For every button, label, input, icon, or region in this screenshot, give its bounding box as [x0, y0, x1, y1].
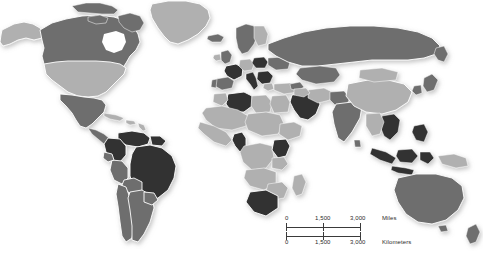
scale-label-kilometers-1: 1,500: [315, 239, 331, 246]
region-sri-lanka: [354, 140, 361, 147]
region-portugal: [211, 79, 217, 88]
scale-unit-kilometers: Kilometers: [382, 239, 411, 246]
scale-label-kilometers-0: 0: [285, 239, 288, 246]
scale-label-miles-0: 0: [285, 215, 288, 222]
region-egypt: [270, 95, 290, 113]
scale-label-miles-2: 3,000: [350, 215, 366, 222]
scale-tick-miles-1: [323, 223, 324, 231]
scale-label-miles-1: 1,500: [315, 215, 331, 222]
world-map: 0 1,500 3,000 Miles 0 1,500 3,000 Kilome…: [0, 0, 483, 264]
scale-unit-miles: Miles: [382, 215, 397, 222]
scale-bar: 0 1,500 3,000 Miles 0 1,500 3,000 Kilome…: [286, 220, 398, 246]
scale-tick-miles-0: [286, 223, 287, 231]
world-map-svg: [0, 0, 483, 264]
scale-label-kilometers-2: 3,000: [350, 239, 366, 246]
scale-tick-miles-2: [360, 223, 361, 231]
scale-bar-miles: 0 1,500 3,000 Miles: [286, 220, 398, 233]
region-poland: [252, 57, 268, 68]
scale-bar-kilometers: 0 1,500 3,000 Kilometers: [286, 233, 398, 246]
